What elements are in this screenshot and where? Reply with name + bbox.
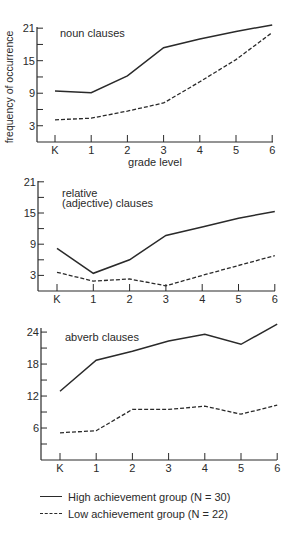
y-tick-label: 3	[29, 120, 35, 132]
x-tick-label: 2	[127, 293, 133, 305]
y-tick-label: 6	[33, 422, 39, 434]
solid-line-swatch-icon	[40, 496, 62, 497]
x-tick-label: K	[56, 462, 64, 474]
y-tick-label: 9	[29, 87, 35, 99]
y-axis-label: frequency of occurrence	[3, 31, 15, 144]
x-axis-label: grade level	[128, 156, 182, 168]
x-tick-label: 3	[161, 144, 167, 156]
x-tick-label: 1	[90, 293, 96, 305]
figure: frequency of occurrence 391521K123456nou…	[0, 0, 294, 533]
x-tick-label: 5	[235, 293, 241, 305]
y-tick-label: 9	[30, 238, 36, 250]
chart-adverb-clauses: 6121824K123456abverb clauses	[27, 324, 281, 474]
low-achievement-line	[55, 33, 272, 120]
x-tick-label: 3	[166, 462, 172, 474]
x-tick-label: 6	[274, 462, 280, 474]
y-tick-label: 24	[27, 326, 39, 338]
x-tick-label: 1	[93, 462, 99, 474]
x-tick-label: 6	[272, 293, 278, 305]
x-tick-label: 1	[88, 144, 94, 156]
chart-noun-clauses: 391521K123456noun clauses	[23, 22, 276, 156]
y-tick-label: 15	[24, 207, 36, 219]
x-tick-label: 6	[269, 144, 275, 156]
y-tick-label: 18	[27, 358, 39, 370]
x-tick-label: 3	[163, 293, 169, 305]
chart-title: abverb clauses	[65, 331, 139, 343]
x-tick-label: K	[53, 293, 61, 305]
y-tick-label: 21	[24, 176, 36, 188]
x-tick-label: 5	[233, 144, 239, 156]
dashed-line-swatch-icon	[40, 513, 62, 514]
chart-relative-clauses: 391521K123456relative(adjective) clauses	[24, 176, 278, 305]
legend-label-high: High achievement group (N = 30)	[68, 491, 230, 503]
chart-title: noun clauses	[60, 27, 125, 39]
x-tick-label: 4	[199, 293, 205, 305]
y-tick-label: 3	[30, 269, 36, 281]
x-tick-label: 2	[129, 462, 135, 474]
x-tick-label: 4	[202, 462, 208, 474]
x-tick-label: 2	[124, 144, 130, 156]
legend-item-high: High achievement group (N = 30)	[40, 488, 230, 505]
y-tick-label: 12	[27, 390, 39, 402]
x-tick-label: 4	[197, 144, 203, 156]
y-tick-label: 15	[23, 55, 35, 67]
low-achievement-line	[60, 405, 277, 433]
y-tick-label: 21	[23, 22, 35, 34]
x-tick-label: K	[51, 144, 59, 156]
legend-label-low: Low achievement group (N = 22)	[68, 508, 228, 520]
legend: High achievement group (N = 30) Low achi…	[40, 488, 230, 522]
chart-title: (adjective) clauses	[62, 197, 154, 209]
legend-item-low: Low achievement group (N = 22)	[40, 505, 230, 522]
x-tick-label: 5	[238, 462, 244, 474]
